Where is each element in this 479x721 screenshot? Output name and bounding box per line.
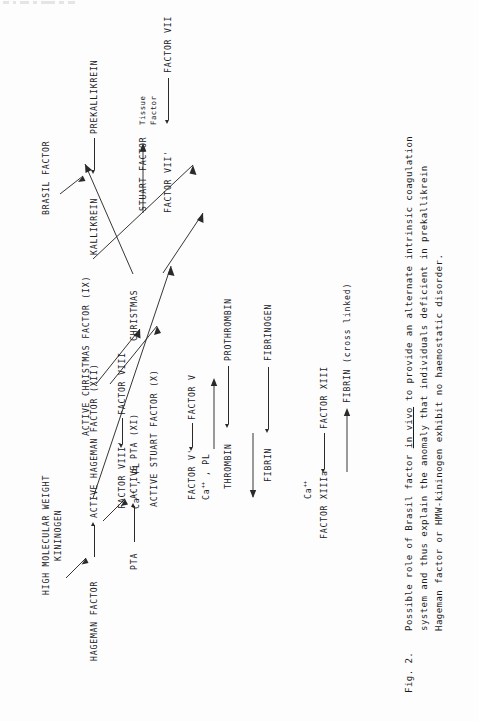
caption-line-1: Possible role of Brasil factor in vivo t…	[404, 136, 414, 631]
caption-italic-phrase: in vivo	[404, 407, 414, 448]
rotated-figure-canvas: HIGH MOLECULAR WEIGHT KININOGEN HAGEMAN …	[0, 0, 479, 721]
caption-line-3: Hageman factor or HMW-kininogen exhibit …	[434, 254, 444, 631]
figure-caption-block: Fig. 2. Possible role of Brasil factor i…	[0, 0, 479, 721]
figure-number: Fig. 2.	[404, 652, 414, 693]
caption-line-2: system and thus explain the anomaly that…	[419, 165, 429, 631]
figure-page: HIGH MOLECULAR WEIGHT KININOGEN HAGEMAN …	[0, 0, 479, 721]
